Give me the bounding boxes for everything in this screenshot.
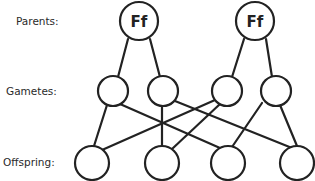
offspring-node-1 xyxy=(75,146,109,180)
gamete-node-1 xyxy=(98,76,128,106)
edge-g1-o3 xyxy=(120,104,220,148)
parent-node-1: Ff xyxy=(120,2,158,40)
gamete-offspring-edges xyxy=(94,100,297,150)
gamete-node-3 xyxy=(212,76,242,106)
gamete-node-2 xyxy=(148,76,178,106)
parent-genotype-2: Ff xyxy=(247,13,264,31)
offspring-node-4 xyxy=(280,146,314,180)
edge-p1-g2 xyxy=(150,39,160,77)
punnett-cross-diagram: Ff Ff xyxy=(0,0,315,181)
edge-g3-o3 xyxy=(172,104,220,149)
offspring-node-2 xyxy=(145,146,179,180)
offspring-node-3 xyxy=(211,146,245,180)
edge-g1-o1 xyxy=(94,105,107,146)
parent-genotype-1: Ff xyxy=(131,13,148,31)
edge-g2-o4 xyxy=(175,101,292,148)
edge-g4-o4 xyxy=(280,105,297,146)
parent-gamete-edges xyxy=(118,39,272,77)
gamete-node-4 xyxy=(261,76,291,106)
edge-p1-g1 xyxy=(118,39,128,77)
edge-p2-g3 xyxy=(232,39,244,77)
parent-node-2: Ff xyxy=(236,2,274,40)
edge-p2-g4 xyxy=(266,39,272,77)
